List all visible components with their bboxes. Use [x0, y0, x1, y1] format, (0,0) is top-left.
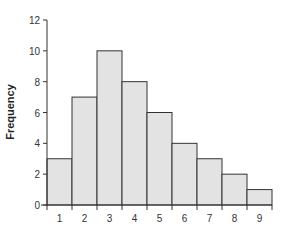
histogram-bar	[172, 143, 197, 205]
histogram-bar	[222, 174, 247, 205]
x-tick-label: 9	[257, 213, 263, 224]
y-tick-label: 0	[34, 200, 40, 211]
chart-canvas: 024681012123456789	[0, 0, 285, 233]
x-tick-label: 6	[182, 213, 188, 224]
x-tick-label: 7	[207, 213, 213, 224]
histogram-bar	[197, 159, 222, 205]
y-tick-label: 10	[29, 46, 41, 57]
y-axis-label: Frequency	[4, 84, 16, 140]
x-tick-label: 8	[232, 213, 238, 224]
x-tick-label: 4	[132, 213, 138, 224]
histogram-bar	[72, 97, 97, 205]
histogram-bar	[47, 159, 72, 205]
histogram-bar	[147, 113, 172, 206]
x-tick-label: 3	[107, 213, 113, 224]
y-tick-label: 6	[34, 108, 40, 119]
histogram-bar	[122, 82, 147, 205]
y-tick-label: 4	[34, 138, 40, 149]
y-tick-label: 12	[29, 15, 41, 26]
histogram-bar	[97, 51, 122, 205]
x-tick-label: 5	[157, 213, 163, 224]
histogram-bar	[247, 190, 272, 205]
y-tick-label: 8	[34, 77, 40, 88]
x-tick-label: 1	[57, 213, 63, 224]
y-tick-label: 2	[34, 169, 40, 180]
x-tick-label: 2	[82, 213, 88, 224]
